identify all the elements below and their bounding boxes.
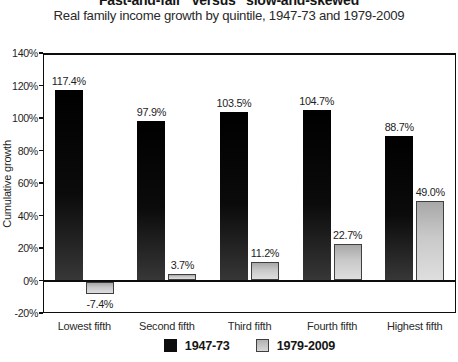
value-label-1947-73: 97.9% — [119, 106, 183, 119]
legend-swatch-1979-2009 — [256, 339, 269, 352]
y-tick-mark — [39, 247, 43, 248]
legend-label: 1947-73 — [185, 339, 230, 353]
y-tick-label: 100% — [0, 112, 38, 124]
value-label-1979-2009: 49.0% — [398, 186, 458, 199]
zero-baseline — [43, 280, 456, 282]
bar-1947-73 — [137, 121, 165, 280]
value-label-1947-73: 117.4% — [37, 75, 101, 88]
bar-1947-73 — [385, 136, 413, 280]
y-tick-label: 140% — [0, 47, 38, 59]
legend-item-1979-2009: 1979-2009 — [256, 339, 335, 353]
y-tick-mark — [39, 182, 43, 183]
bar-1979-2009 — [334, 244, 362, 281]
y-tick-label: 80% — [0, 145, 38, 157]
legend-item-1947-73: 1947-73 — [164, 339, 230, 353]
y-tick-mark — [39, 312, 43, 313]
y-tick-mark — [39, 52, 43, 53]
y-tick-mark — [39, 215, 43, 216]
value-label-1947-73: 88.7% — [367, 121, 431, 134]
value-label-1979-2009: 22.7% — [316, 229, 380, 242]
chart-title: “Fast-and-fair” versus “slow-and-skewed” — [0, 0, 458, 8]
category-label: Fourth fifth — [291, 320, 374, 334]
category-label: Highest fifth — [373, 320, 456, 334]
category-label: Lowest fifth — [43, 320, 126, 334]
y-tick-label: 0% — [0, 275, 38, 287]
value-label-1947-73: 104.7% — [285, 95, 349, 108]
value-label-1979-2009: -7.4% — [68, 298, 132, 311]
value-label-1979-2009: 3.7% — [150, 259, 214, 272]
legend-label: 1979-2009 — [277, 339, 335, 353]
bar-1947-73 — [303, 110, 331, 280]
legend-swatch-1947-73 — [164, 339, 177, 352]
y-tick-label: 120% — [0, 80, 38, 92]
y-tick-mark — [39, 150, 43, 151]
y-tick-label: 20% — [0, 242, 38, 254]
category-label: Second fifth — [126, 320, 209, 334]
legend: 1947-731979-2009 — [43, 337, 456, 354]
bar-1979-2009 — [251, 262, 279, 280]
bar-1979-2009 — [86, 282, 114, 294]
bar-1979-2009 — [416, 201, 444, 281]
value-label-1979-2009: 11.2% — [233, 247, 297, 260]
y-tick-label: 40% — [0, 210, 38, 222]
y-tick-label: -20% — [0, 307, 38, 319]
chart-subtitle: Real family income growth by quintile, 1… — [0, 8, 458, 24]
bar-1947-73 — [55, 90, 83, 281]
value-label-1947-73: 103.5% — [202, 97, 266, 110]
y-tick-mark — [39, 117, 43, 118]
y-tick-label: 60% — [0, 177, 38, 189]
category-label: Third fifth — [208, 320, 291, 334]
